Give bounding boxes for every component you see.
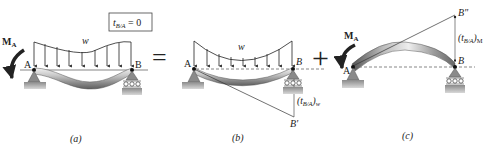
tangent-line	[353, 15, 455, 66]
caption-b: (b)	[232, 132, 244, 144]
panel-a: tB/A = 0 w MA A B	[2, 13, 152, 145]
moment-arrow-icon	[11, 50, 24, 78]
point-b-label: B	[296, 56, 302, 67]
beam	[194, 68, 292, 86]
moment-label: MA	[344, 30, 359, 43]
panel-c: B" (tB/A)M MA A B (c)	[342, 7, 483, 142]
equals-operator: =	[152, 43, 167, 72]
moment-label: MA	[2, 36, 17, 49]
deviation-label-m: (tB/A)M	[458, 33, 483, 44]
point-b-label: B	[458, 55, 464, 66]
condition-sub: B/A	[116, 22, 126, 29]
roller-support-icon	[445, 68, 465, 93]
point-b-double-prime-label: B"	[458, 7, 469, 18]
plus-operator: +	[312, 41, 329, 74]
load-label-w: w	[238, 41, 245, 52]
load-label-w: w	[82, 35, 89, 46]
panel-b: w (tB/A)w A B B'	[182, 41, 325, 144]
superposition-diagram: tB/A = 0 w MA A B	[0, 0, 490, 149]
beam	[34, 68, 132, 89]
point-b-label: B	[135, 59, 142, 70]
point-a-label: A	[184, 58, 192, 69]
b-double-prime-dot	[454, 16, 456, 18]
caption-c: (c)	[402, 130, 414, 142]
point-b-prime-label: B'	[290, 118, 299, 129]
point-a-label: A	[24, 59, 32, 70]
deviation-label-w: (tB/A)w	[297, 96, 321, 107]
caption-a: (a)	[70, 133, 82, 145]
condition-rest: = 0	[126, 17, 142, 28]
beam	[352, 42, 455, 71]
condition-box: tB/A = 0	[109, 13, 152, 31]
